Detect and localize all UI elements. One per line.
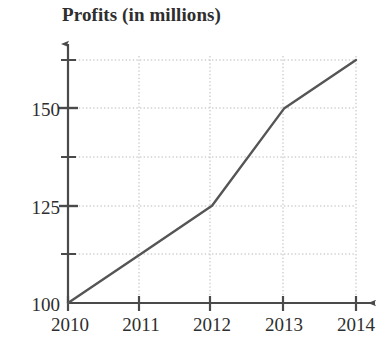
profits-line-chart: Profits (in millions) xyxy=(0,0,389,359)
y-axis-label-125: 125 xyxy=(8,198,60,217)
x-axis-label-2010: 2010 xyxy=(34,315,106,334)
y-axis-label-150: 150 xyxy=(8,100,60,119)
y-axis-label-100: 100 xyxy=(8,295,60,314)
x-axis-label-2014: 2014 xyxy=(320,315,389,334)
profits-data-line xyxy=(68,60,356,303)
x-axis-label-2012: 2012 xyxy=(176,315,248,334)
x-axis-label-2013: 2013 xyxy=(248,315,320,334)
x-axis-label-2011: 2011 xyxy=(105,315,177,334)
y-axis-labels: 150 125 100 xyxy=(0,0,60,359)
x-axis-labels: 2010 2011 2012 2013 2014 xyxy=(0,315,389,345)
vertical-gridlines xyxy=(139,56,356,303)
